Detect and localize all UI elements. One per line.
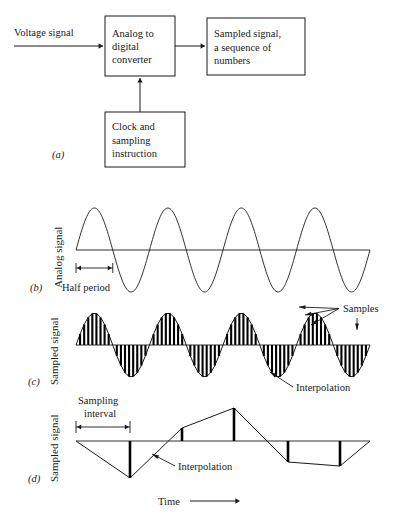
clock-to-adc-arrow-head [137, 78, 142, 82]
block-sampled-output-line: numbers [214, 55, 250, 66]
sampling-figure: Analog todigitalconverterSampled signal,… [0, 0, 402, 523]
samples-arrow-1 [299, 305, 306, 309]
sampling-interval-arrow-right [125, 424, 129, 429]
block-sampled-output-line: Sampled signal, [214, 28, 281, 39]
block-adc-line: digital [112, 41, 139, 52]
block-adc-line: Analog to [112, 28, 154, 39]
voltage-signal-label: Voltage signal [14, 27, 74, 38]
panel-a-block-diagram: Analog todigitalconverterSampled signal,… [14, 16, 305, 167]
panel-c-axis-label: Sampled signal [48, 317, 60, 385]
panel-d-interpolation-label: Interpolation [178, 461, 233, 472]
panel-c-interpolation-label: Interpolation [296, 382, 351, 393]
panel-d-id: (d) [28, 473, 41, 485]
block-sampled-output-line: a sequence of [214, 42, 272, 53]
block-clock-line: sampling [112, 135, 151, 146]
panel-b-id: (b) [30, 282, 43, 294]
block-adc-line: converter [112, 54, 152, 65]
sampling-interval-label-line1: Sampling [78, 395, 119, 406]
panel-b-axis-label: Analog signal [52, 227, 64, 288]
panel-b-analog-signal: Half periodAnalog signal(b) [30, 208, 370, 294]
sampling-interval-label-line2: interval [84, 408, 116, 419]
adc-to-output-arrow-head [201, 43, 205, 48]
panel-c-sampled-signal-dense: SamplesInterpolationSampled signal(c) [28, 303, 379, 393]
samples-label: Samples [343, 303, 379, 314]
panel-a-id: (a) [52, 149, 65, 161]
panel-d-interpolation-arrow [152, 454, 159, 459]
half-period-label: Half period [62, 282, 111, 293]
block-clock-line: instruction [112, 148, 158, 159]
half-period-arrow-right [108, 266, 112, 271]
input-arrow-head [99, 43, 103, 48]
time-axis-arrow-head [235, 498, 240, 504]
half-period-arrow-left [77, 266, 81, 271]
block-clock-line: Clock and [112, 121, 156, 132]
panel-c-id: (c) [28, 376, 40, 388]
panel-d-sampled-signal-sparse: SamplingintervalInterpolationTimeSampled… [28, 395, 370, 507]
time-axis-label: Time [158, 496, 180, 507]
sampling-interval-arrow-left [77, 424, 81, 429]
panel-d-axis-label: Sampled signal [48, 414, 60, 482]
samples-arrow-4 [355, 324, 359, 331]
